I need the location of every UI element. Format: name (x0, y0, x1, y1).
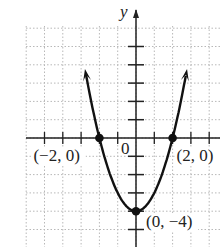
point-marker (168, 134, 177, 143)
y-axis-label: y (118, 2, 128, 21)
point-marker (132, 207, 141, 216)
parabola-chart: (−2, 0)(2, 0)(0, −4) y 0 (0, 0, 220, 247)
point-label: (2, 0) (177, 146, 214, 165)
point-label: (0, −4) (146, 212, 192, 231)
origin-label: 0 (121, 139, 130, 158)
point-label: (−2, 0) (33, 146, 79, 165)
point-marker (95, 134, 104, 143)
